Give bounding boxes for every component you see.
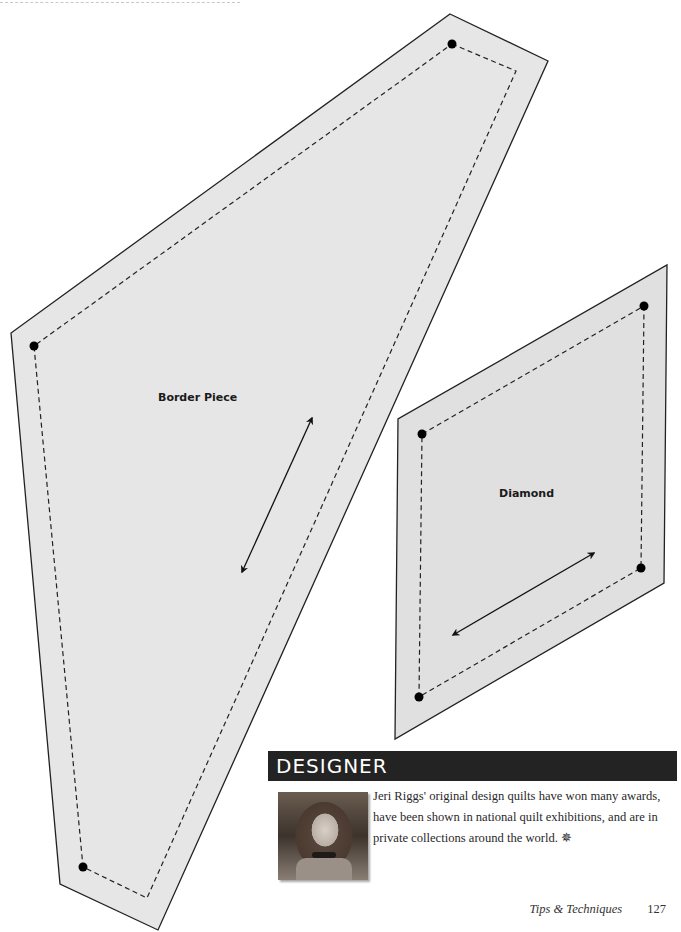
designer-photo xyxy=(278,792,368,880)
match-point-dot xyxy=(79,863,88,872)
match-point-dot xyxy=(637,564,646,573)
diamond-outline xyxy=(395,265,667,739)
match-point-dot xyxy=(415,693,424,702)
match-point-dot xyxy=(30,342,39,351)
match-point-dot xyxy=(448,40,457,49)
page: Border Piece Diamond DESIGNER Jeri Riggs… xyxy=(0,0,681,932)
photo-shirt xyxy=(296,858,352,880)
designer-heading: DESIGNER xyxy=(268,751,677,781)
match-point-dot xyxy=(418,430,427,439)
designer-bio: Jeri Riggs' original design quilts have … xyxy=(373,786,681,849)
footer-section-title: Tips & Techniques xyxy=(530,902,623,916)
border-piece-label: Border Piece xyxy=(158,391,237,404)
diamond-label: Diamond xyxy=(499,487,554,500)
page-number: 127 xyxy=(647,902,666,916)
page-footer: Tips & Techniques 127 xyxy=(530,902,666,917)
match-point-dot xyxy=(640,302,649,311)
diamond-template: Diamond xyxy=(395,265,667,739)
